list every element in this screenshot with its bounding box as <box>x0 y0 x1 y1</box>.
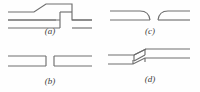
panel-a-label: (a) <box>0 26 100 36</box>
left-top-taper-line <box>110 11 150 20</box>
bottom-contour-line <box>108 58 190 64</box>
upper-contour-line <box>8 4 92 20</box>
right-top-taper-line <box>158 11 190 20</box>
panel-a-offset-step-joint: (a) <box>0 0 100 46</box>
panel-c-drawing <box>100 0 200 46</box>
figure-root: (a) (c) (b) <box>0 0 200 92</box>
panel-c-tapered-gap-joint: (c) <box>100 0 200 46</box>
z-upper-diagonal-line <box>134 49 146 55</box>
panel-c-label: (c) <box>100 26 200 36</box>
panel-d-label: (d) <box>100 74 200 84</box>
panel-d-z-scarf-joint: (d) <box>100 46 200 92</box>
panel-b-butt-joint: (b) <box>0 46 100 92</box>
top-contour-line <box>108 49 190 55</box>
panel-b-label: (b) <box>0 76 100 86</box>
panel-a-drawing <box>0 0 100 46</box>
z-lower-diagonal-line <box>134 55 145 61</box>
panel-d-drawing <box>100 46 200 92</box>
